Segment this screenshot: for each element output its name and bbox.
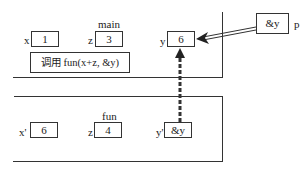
double-arrow-p-to-y [196, 27, 256, 44]
dashed-arrow-yprime-to-y [175, 48, 185, 122]
arrows-overlay [0, 0, 305, 173]
